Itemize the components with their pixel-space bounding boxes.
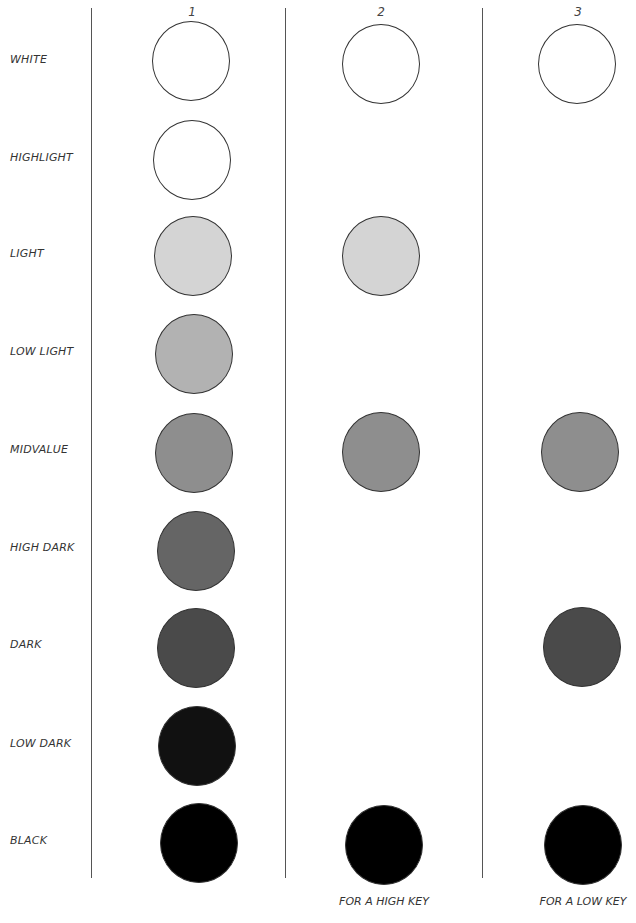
swatch-col1-midvalue bbox=[155, 413, 233, 493]
swatch-col1-low-dark bbox=[158, 706, 236, 786]
row-label-light: LIGHT bbox=[10, 247, 44, 260]
swatch-col3-black bbox=[544, 805, 622, 885]
row-label-low-light: LOW LIGHT bbox=[10, 345, 74, 358]
divider-line-3 bbox=[482, 8, 483, 878]
row-label-highlight: HIGHLIGHT bbox=[10, 151, 73, 164]
row-label-low-dark: LOW DARK bbox=[10, 737, 71, 750]
column-header-1: 1 bbox=[188, 5, 196, 19]
swatch-col3-dark bbox=[543, 607, 621, 687]
swatch-col1-high-dark bbox=[157, 511, 235, 591]
swatch-col1-white bbox=[152, 21, 230, 101]
swatch-col1-black bbox=[160, 803, 238, 883]
row-label-high-dark: HIGH DARK bbox=[10, 541, 74, 554]
column-header-3: 3 bbox=[574, 5, 582, 19]
swatch-col2-midvalue bbox=[342, 412, 420, 492]
row-label-black: BLACK bbox=[10, 834, 47, 847]
swatch-col2-white bbox=[342, 24, 420, 104]
swatch-col3-midvalue bbox=[541, 412, 619, 492]
row-label-midvalue: MIDVALUE bbox=[10, 443, 68, 456]
column-header-2: 2 bbox=[377, 5, 385, 19]
swatch-col1-low-light bbox=[155, 314, 233, 394]
swatch-col2-black bbox=[345, 805, 423, 885]
row-label-white: WHITE bbox=[10, 53, 47, 66]
swatch-col1-dark bbox=[157, 608, 235, 688]
swatch-col3-white bbox=[538, 24, 616, 104]
swatch-col1-light bbox=[154, 216, 232, 296]
divider-line-1 bbox=[91, 8, 92, 878]
divider-line-2 bbox=[285, 8, 286, 878]
swatch-col1-highlight bbox=[153, 120, 231, 200]
caption-high-key: FOR A HIGH KEY bbox=[339, 895, 429, 908]
row-label-dark: DARK bbox=[10, 638, 42, 651]
caption-low-key: FOR A LOW KEY bbox=[540, 895, 627, 908]
swatch-col2-light bbox=[342, 216, 420, 296]
